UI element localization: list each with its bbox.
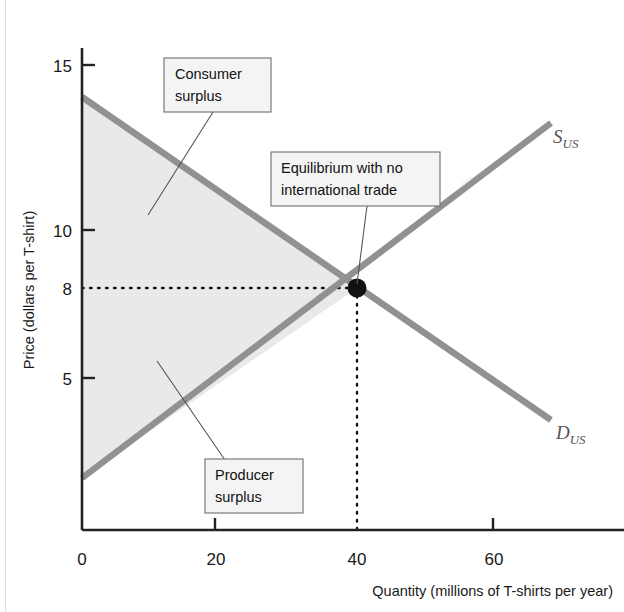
equilibrium-callout: Equilibrium with no international trade <box>271 152 440 206</box>
producer-surplus-callout-line1: Producer <box>215 467 274 483</box>
y-tick-label-15: 15 <box>53 57 72 76</box>
equilibrium-callout-line1: Equilibrium with no <box>281 160 403 176</box>
consumer-surplus-callout: Consumer surplus <box>164 58 271 112</box>
x-tick-label-60: 60 <box>485 550 504 569</box>
economics-supply-demand-figure: 15 10 8 5 0 20 40 60 Price (dollars per … <box>0 0 624 612</box>
page-edge-divider <box>5 0 6 612</box>
x-tick-label-40: 40 <box>348 550 367 569</box>
equilibrium-leader-line <box>357 206 367 284</box>
supply-label-main: S <box>553 126 563 147</box>
demand-label-sub: US <box>570 432 586 447</box>
svg-text:DUS: DUS <box>555 422 586 447</box>
consumer-surplus-callout-line2: surplus <box>175 88 222 104</box>
y-tick-label-10: 10 <box>53 222 72 241</box>
consumer-surplus-callout-line1: Consumer <box>175 66 242 82</box>
supply-curve-label: SUS <box>553 126 579 151</box>
y-axis-title: Price (dollars per T-shirt) <box>21 211 37 369</box>
demand-label-main: D <box>555 422 570 443</box>
x-tick-label-0: 0 <box>77 550 86 569</box>
y-tick-label-8: 8 <box>63 280 72 299</box>
producer-surplus-callout-line2: surplus <box>215 489 262 505</box>
x-axis-title: Quantity (millions of T-shirts per year) <box>372 583 613 599</box>
equilibrium-callout-line2: international trade <box>281 182 397 198</box>
x-tick-label-20: 20 <box>207 550 226 569</box>
y-tick-label-5: 5 <box>63 370 72 389</box>
demand-curve-label: DUS <box>555 422 586 447</box>
producer-surplus-callout: Producer surplus <box>205 459 303 513</box>
chart-canvas: 15 10 8 5 0 20 40 60 Price (dollars per … <box>0 0 624 612</box>
svg-text:SUS: SUS <box>553 126 579 151</box>
supply-label-sub: US <box>563 136 579 151</box>
